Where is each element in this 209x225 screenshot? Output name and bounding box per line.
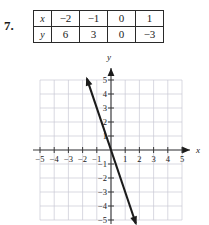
x-tick-label: −5	[35, 154, 44, 164]
y-tick-label: −5	[98, 215, 107, 225]
x-tick-label: 5	[180, 154, 184, 164]
x-axis-arrow-icon	[182, 147, 190, 154]
table-cell-x-3: 1	[136, 11, 164, 27]
problem-number: 7.	[4, 18, 14, 34]
x-tick-label: 2	[137, 154, 141, 164]
value-table: x −2 −1 0 1 y 6 3 0 −3	[33, 10, 164, 43]
graph-svg: −5−4−3−2−11234554321−1−2−3−4−5 x y	[0, 48, 209, 225]
x-tick-label: 1	[123, 154, 127, 164]
table-cell-x-0: −2	[52, 11, 80, 27]
table-cell-x-1: −1	[80, 11, 108, 27]
y-tick-label: 3	[103, 103, 107, 113]
table-row: x −2 −1 0 1	[34, 11, 164, 27]
y-tick-label: −3	[98, 187, 107, 197]
table-cell-y-0: 6	[52, 27, 80, 43]
y-tick-label: −1	[98, 159, 107, 169]
table-row: y 6 3 0 −3	[34, 27, 164, 43]
table-cell-y-2: 0	[108, 27, 136, 43]
table-cell-y-3: −3	[136, 27, 164, 43]
table-cell-y-1: 3	[80, 27, 108, 43]
plot-line-lower-arrow-icon	[130, 216, 136, 225]
y-tick-label: 5	[103, 75, 107, 85]
x-tick-label: 3	[151, 154, 155, 164]
x-tick-label: −2	[78, 154, 87, 164]
table-row-header-x: x	[34, 11, 52, 27]
x-tick-label: −4	[50, 154, 60, 164]
x-tick-label: −3	[64, 154, 73, 164]
table-row-header-y: y	[34, 27, 52, 43]
x-axis-label: x	[195, 145, 200, 155]
coordinate-graph: −5−4−3−2−11234554321−1−2−3−4−5 x y	[0, 48, 209, 225]
y-tick-label: −2	[98, 173, 107, 183]
y-tick-label: −4	[98, 201, 108, 211]
table-cell-x-2: 0	[108, 11, 136, 27]
x-tick-label: 4	[166, 154, 171, 164]
y-axis-arrow-icon	[108, 68, 115, 76]
y-axis-label: y	[106, 52, 111, 62]
plot-line-upper-arrow-icon	[86, 77, 92, 87]
